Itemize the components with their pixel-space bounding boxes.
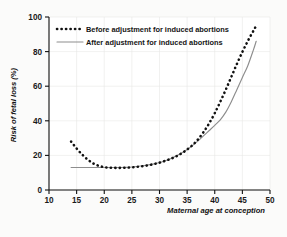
y-tick-label: 20 <box>33 151 43 160</box>
x-tick-label: 15 <box>72 196 82 205</box>
legend-label-before: Before adjustment for induced abortions <box>86 25 229 34</box>
x-tick-label: 10 <box>44 196 54 205</box>
y-tick-label: 100 <box>28 13 42 22</box>
legend-label-after: After adjustment for induced abortions <box>86 38 223 47</box>
y-axis-title: Risk of fetal loss (%) <box>9 67 18 142</box>
x-tick-label: 30 <box>155 196 165 205</box>
x-tick-label: 40 <box>210 196 220 205</box>
y-tick-label: 60 <box>33 82 43 91</box>
chart-svg: 020406080100 101520253035404550 Before a… <box>0 0 287 237</box>
fetal-loss-risk-chart: 020406080100 101520253035404550 Before a… <box>0 0 287 237</box>
x-tick-label: 25 <box>127 196 137 205</box>
y-tick-label: 0 <box>37 186 42 195</box>
y-tick-label: 80 <box>33 48 43 57</box>
x-tick-label: 50 <box>265 196 275 205</box>
y-tick-label: 40 <box>33 117 43 126</box>
x-axis-title: Maternal age at conception <box>167 206 265 215</box>
x-tick-label: 35 <box>183 196 193 205</box>
x-tick-label: 45 <box>238 196 248 205</box>
x-tick-label: 20 <box>100 196 110 205</box>
